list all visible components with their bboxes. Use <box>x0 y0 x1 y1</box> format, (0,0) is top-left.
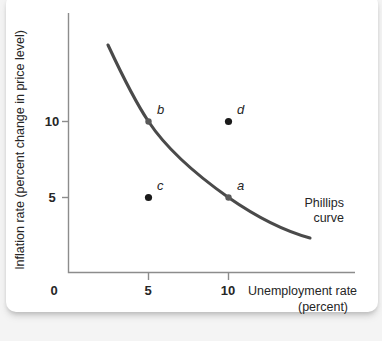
data-point-d <box>225 118 232 125</box>
y-tick-label-5: 5 <box>48 190 55 205</box>
x-axis-title: Unemployment rate <box>248 284 357 298</box>
data-point-c <box>145 194 152 201</box>
curve-annotation-line1: Phillips <box>304 196 344 210</box>
data-point-b <box>145 118 151 124</box>
figure-root: 10 5 0 5 10 Unemployment rate (percent) … <box>0 0 382 341</box>
y-tick-label-10: 10 <box>45 114 59 129</box>
data-point-label-b: b <box>157 102 164 117</box>
phillips-curve-line <box>108 45 310 238</box>
x-tick-label-10: 10 <box>221 283 235 298</box>
x-axis-ticks <box>149 273 229 281</box>
x-tick-label-0: 0 <box>50 283 57 298</box>
data-point-label-c: c <box>157 178 164 193</box>
curve-annotation-line2: curve <box>313 211 344 225</box>
data-point-label-d: d <box>237 102 245 117</box>
phillips-curve-chart: 10 5 0 5 10 Unemployment rate (percent) … <box>0 0 382 341</box>
data-point-a <box>225 194 231 200</box>
x-axis-title-units: (percent) <box>298 300 348 314</box>
y-axis-title: Inflation rate (percent change in price … <box>13 30 27 270</box>
data-point-label-a: a <box>237 178 244 193</box>
x-tick-label-5: 5 <box>144 283 151 298</box>
y-axis-ticks <box>62 122 69 198</box>
